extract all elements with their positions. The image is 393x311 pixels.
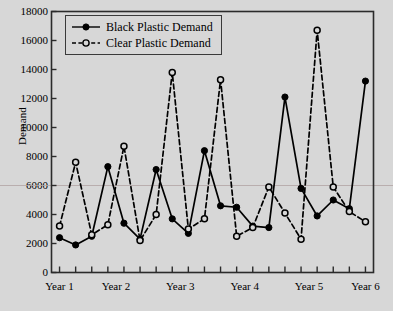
demand-line-chart: Demand 020004000600080001000012000140001… [0, 0, 393, 311]
x-tick-label: Year 1 [45, 281, 74, 292]
legend-marker-open-circle-icon [71, 36, 101, 50]
x-tick-label: Year 3 [166, 281, 195, 292]
legend-label-black-plastic-demand: Black Plastic Demand [106, 21, 213, 33]
x-tick-label: Year 4 [230, 281, 259, 292]
x-axis-tick-labels: Year 1Year 2Year 3Year 4Year 5Year 6 [0, 281, 393, 301]
legend-item-black-plastic-demand: Black Plastic Demand [71, 19, 213, 35]
x-tick-label: Year 2 [102, 281, 131, 292]
legend-label-clear-plastic-demand: Clear Plastic Demand [106, 37, 211, 49]
x-tick-label: Year 6 [351, 281, 380, 292]
chart-legend: Black Plastic Demand Clear Plastic Deman… [65, 15, 222, 55]
legend-item-clear-plastic-demand: Clear Plastic Demand [71, 35, 213, 51]
x-tick-label: Year 5 [295, 281, 324, 292]
legend-marker-filled-circle-icon [71, 20, 101, 34]
